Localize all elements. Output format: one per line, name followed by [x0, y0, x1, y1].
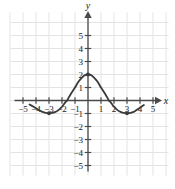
y-tick-label: 4 — [79, 44, 84, 54]
grid-lines — [10, 13, 169, 176]
x-axis-label: x — [163, 95, 169, 106]
graph-figure: −5−4−3−2−112345−5−4−3−2−112345 x y — [0, 0, 175, 189]
y-tick-label: −3 — [73, 135, 83, 145]
y-tick-label: −5 — [73, 161, 83, 171]
curve-point-marker — [47, 111, 51, 115]
y-tick-label: −4 — [73, 148, 83, 158]
curve-point-marker — [86, 73, 90, 77]
y-tick-label: 3 — [79, 57, 84, 67]
curve-point-marker — [125, 111, 129, 115]
coordinate-plane-svg: −5−4−3−2−112345−5−4−3−2−112345 x y — [0, 0, 175, 189]
y-tick-label: 1 — [79, 83, 84, 93]
x-tick-label: 1 — [99, 104, 104, 114]
y-axis-arrowhead — [84, 11, 91, 18]
x-tick-label: −5 — [18, 104, 28, 114]
y-tick-label: −1 — [73, 109, 83, 119]
x-axis-arrowhead — [155, 97, 162, 104]
y-tick-label: 5 — [79, 31, 84, 41]
y-tick-label: −2 — [73, 122, 83, 132]
y-axis-label: y — [85, 0, 91, 11]
x-tick-label: 5 — [151, 104, 156, 114]
